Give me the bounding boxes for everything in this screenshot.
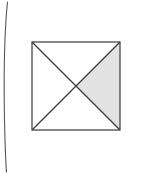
figure-canvas <box>0 0 143 181</box>
page-edge-line <box>4 2 7 172</box>
scanned-page <box>0 0 143 181</box>
